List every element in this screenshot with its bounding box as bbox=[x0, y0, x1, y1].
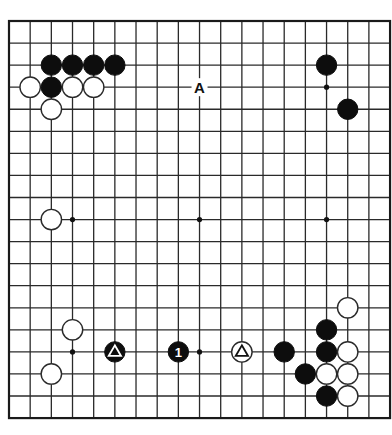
white-stone bbox=[338, 386, 358, 406]
black-stone bbox=[316, 320, 336, 340]
black-stone bbox=[62, 55, 82, 75]
white-stone-icon bbox=[20, 77, 40, 97]
black-stone-icon bbox=[316, 342, 336, 362]
white-stone-icon bbox=[338, 342, 358, 362]
black-stone bbox=[41, 55, 61, 75]
star-point bbox=[324, 217, 329, 222]
white-stone-icon bbox=[338, 298, 358, 318]
white-stone bbox=[62, 320, 82, 340]
white-stone bbox=[338, 298, 358, 318]
black-stone bbox=[274, 342, 294, 362]
black-stone-icon bbox=[295, 364, 315, 384]
white-stone bbox=[41, 209, 61, 229]
white-stone-icon bbox=[338, 364, 358, 384]
star-point bbox=[70, 217, 75, 222]
white-stone bbox=[20, 77, 40, 97]
white-stone-icon bbox=[83, 77, 103, 97]
black-stone-icon bbox=[274, 342, 294, 362]
white-stone-icon bbox=[41, 364, 61, 384]
black-stone bbox=[105, 342, 125, 362]
white-stone bbox=[338, 342, 358, 362]
white-stone bbox=[41, 364, 61, 384]
go-board-diagram: A 1 bbox=[0, 0, 392, 435]
white-stone bbox=[316, 364, 336, 384]
white-stone-icon bbox=[62, 320, 82, 340]
black-stone bbox=[105, 55, 125, 75]
board-labels: A bbox=[192, 78, 208, 96]
black-stone bbox=[338, 99, 358, 119]
white-stone-icon bbox=[338, 386, 358, 406]
white-stone bbox=[338, 364, 358, 384]
black-stone-icon bbox=[83, 55, 103, 75]
star-point bbox=[324, 85, 329, 90]
black-stone bbox=[316, 342, 336, 362]
black-stone bbox=[83, 55, 103, 75]
black-stone bbox=[41, 77, 61, 97]
black-stone: 1 bbox=[168, 342, 188, 362]
white-stone-icon bbox=[41, 99, 61, 119]
black-stone-icon bbox=[338, 99, 358, 119]
black-stone-icon bbox=[41, 77, 61, 97]
black-stone-icon bbox=[316, 55, 336, 75]
white-stone bbox=[83, 77, 103, 97]
white-stone-icon bbox=[41, 209, 61, 229]
black-stone bbox=[316, 55, 336, 75]
star-point bbox=[197, 349, 202, 354]
go-board: A 1 bbox=[0, 0, 392, 435]
star-point bbox=[70, 349, 75, 354]
white-stone-icon bbox=[316, 364, 336, 384]
black-stone bbox=[295, 364, 315, 384]
black-stone-icon bbox=[105, 55, 125, 75]
black-stone bbox=[316, 386, 336, 406]
white-stone-icon bbox=[62, 77, 82, 97]
move-number: 1 bbox=[175, 345, 182, 360]
white-stone bbox=[62, 77, 82, 97]
black-stone-icon bbox=[316, 386, 336, 406]
black-stone-icon bbox=[316, 320, 336, 340]
white-stone bbox=[232, 342, 252, 362]
black-stone-icon bbox=[41, 55, 61, 75]
board-label: A bbox=[192, 78, 208, 96]
white-stone bbox=[41, 99, 61, 119]
star-point bbox=[197, 217, 202, 222]
black-stone-icon bbox=[62, 55, 82, 75]
label-letter: A bbox=[194, 79, 205, 96]
